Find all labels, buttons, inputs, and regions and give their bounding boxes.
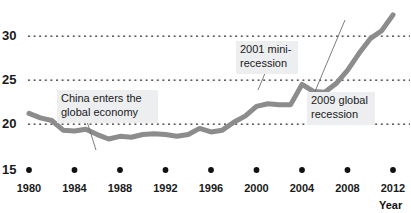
y-tick-label-30: 30: [2, 29, 16, 42]
chart-container: 30 25 20 15 1980 1984 1988 1992 1996 200…: [0, 0, 411, 213]
gridline-30: [26, 35, 410, 37]
annotation-mini-recession-2001: 2001 mini- recession: [236, 41, 298, 74]
gridline-25: [26, 79, 410, 81]
annotation-china-entry: China enters the global economy: [57, 90, 158, 123]
x-tick-dot: [72, 167, 78, 173]
x-tick-dot: [345, 167, 351, 173]
x-axis-title: Year: [379, 200, 402, 211]
y-tick-label-15: 15: [2, 163, 16, 176]
x-tick-label-1996: 1996: [191, 183, 231, 194]
x-tick-label-2008: 2008: [328, 183, 368, 194]
x-tick-dot: [254, 167, 260, 173]
x-tick-dot: [117, 167, 123, 173]
y-tick-label-25: 25: [2, 73, 16, 86]
y-tick-label-20: 20: [2, 117, 16, 130]
x-tick-dot: [390, 167, 396, 173]
x-tick-dot: [208, 167, 214, 173]
x-tick-label-2004: 2004: [282, 183, 322, 194]
x-tick-dot: [163, 167, 169, 173]
x-tick-label-1980: 1980: [9, 183, 49, 194]
annotation-global-recession-2009: 2009 global recession: [307, 92, 375, 125]
x-tick-label-2012: 2012: [373, 183, 411, 194]
x-tick-label-1988: 1988: [100, 183, 140, 194]
x-tick-label-1984: 1984: [55, 183, 95, 194]
x-tick-label-1992: 1992: [146, 183, 186, 194]
x-tick-markers: [26, 167, 396, 173]
x-tick-label-2000: 2000: [237, 183, 277, 194]
x-tick-dot: [26, 167, 32, 173]
x-tick-dot: [299, 167, 305, 173]
